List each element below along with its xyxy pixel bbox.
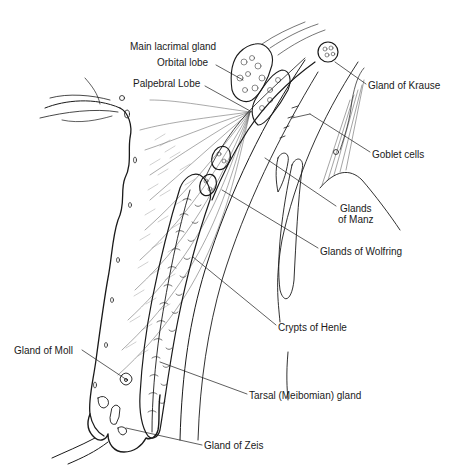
- manz-fibers: [322, 80, 364, 185]
- label-gland-of-zeis: Gland of Zeis: [204, 440, 263, 451]
- leader-glands-of-wolfring: [222, 190, 318, 248]
- muscle-fibers: [118, 100, 250, 375]
- lid-skin-outline: [90, 108, 131, 436]
- orbital-lobe-shape: [231, 44, 272, 102]
- gland-of-zeis-shape: [98, 396, 127, 435]
- label-glands-of-wolfring: Glands of Wolfring: [320, 246, 402, 257]
- label-orbital-lobe: Orbital lobe: [157, 57, 208, 68]
- label-main-lacrimal-gland: Main lacrimal gland: [130, 41, 216, 52]
- eyelid-illustration: [0, 0, 468, 472]
- label-palpebral-lobe: Palpebral Lobe: [133, 78, 200, 89]
- leader-palpebral-lobe: [205, 86, 252, 112]
- eyelid-anatomy-diagram: Main lacrimal gland Orbital lobe Palpebr…: [0, 0, 468, 472]
- label-glands-of-manz: Glands of Manz: [338, 203, 374, 225]
- globe-arc-inner: [198, 72, 318, 440]
- label-tarsal-gland: Tarsal (Meibomian) gland: [249, 390, 361, 401]
- leader-gland-of-moll: [82, 350, 127, 380]
- meibomian-acini: [148, 199, 201, 413]
- gland-of-krause-shape: [318, 42, 338, 62]
- leader-goblet-cells: [310, 114, 370, 152]
- label-gland-of-krause: Gland of Krause: [368, 80, 440, 91]
- tarsal-plate: [140, 174, 211, 438]
- globe-arc-3: [278, 62, 358, 322]
- muscle-hatching: [126, 134, 195, 356]
- label-crypts-of-henle: Crypts of Henle: [278, 322, 347, 333]
- label-goblet-cells: Goblet cells: [372, 149, 424, 160]
- globe-arc-outer: [180, 60, 305, 440]
- leader-tarsal-gland: [160, 362, 247, 394]
- label-gland-of-moll: Gland of Moll: [14, 345, 73, 356]
- leader-crypts-of-henle: [193, 257, 276, 325]
- eyelash-1: [52, 438, 95, 458]
- leader-gland-of-zeis: [126, 428, 202, 445]
- eyelash-2: [68, 442, 108, 464]
- lacrimal-lobules: [237, 56, 281, 111]
- meibomian-gland-duct: [152, 190, 190, 432]
- leader-orbital-lobe: [216, 65, 243, 80]
- leader-gland-of-krause: [335, 62, 366, 84]
